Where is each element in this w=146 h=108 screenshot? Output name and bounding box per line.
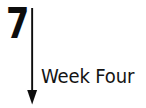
arrow-shaft [31,8,33,91]
arrow-head [27,90,37,105]
caption-label: Week Four [41,64,134,88]
annotation-figure: 7 Week Four [0,0,146,108]
downward-arrow-svg [23,4,45,106]
downward-arrow-icon [23,4,45,106]
